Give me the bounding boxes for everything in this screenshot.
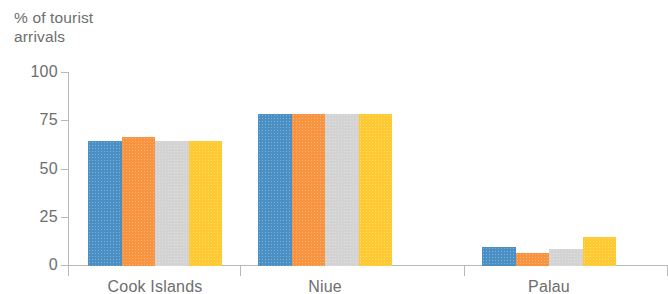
bar-4 bbox=[583, 237, 617, 266]
bar-group-niue bbox=[258, 61, 392, 266]
bar-chart: % of tourist arrivals 0255075100 Cook Is… bbox=[0, 0, 668, 294]
bar-group-palau bbox=[482, 61, 616, 266]
bar-3 bbox=[549, 249, 583, 266]
y-tick-label-50: 50 bbox=[0, 161, 58, 177]
bar-4 bbox=[189, 141, 223, 266]
bar-group-cook-islands bbox=[88, 61, 222, 266]
bar-1 bbox=[482, 247, 516, 266]
bar-2 bbox=[292, 114, 326, 266]
bar-2 bbox=[122, 137, 156, 266]
bar-3 bbox=[155, 141, 189, 266]
x-axis-separator-3 bbox=[464, 265, 465, 276]
y-tick-label-25: 25 bbox=[0, 209, 58, 225]
y-tick-label-0: 0 bbox=[0, 257, 58, 273]
bar-1 bbox=[88, 141, 122, 266]
x-label-palau: Palau bbox=[528, 278, 570, 294]
y-axis-title: % of tourist arrivals bbox=[14, 8, 93, 46]
y-tick-text: 0 bbox=[49, 257, 58, 273]
x-axis-separator-2 bbox=[240, 265, 241, 276]
x-axis-separator-1 bbox=[68, 265, 69, 276]
y-tick-label-100: 100 bbox=[0, 64, 58, 80]
y-tick-text: 25 bbox=[40, 209, 58, 225]
bar-1 bbox=[258, 114, 292, 266]
plot-area bbox=[68, 60, 668, 266]
y-tick-label-75: 75 bbox=[0, 112, 58, 128]
y-tick-text: 50 bbox=[40, 161, 58, 177]
bar-2 bbox=[516, 253, 550, 267]
y-tick-text: 75 bbox=[40, 112, 58, 128]
y-tick-text: 100 bbox=[30, 64, 58, 80]
bar-3 bbox=[325, 114, 359, 266]
x-label-cook-islands: Cook Islands bbox=[108, 278, 203, 294]
bar-4 bbox=[359, 114, 393, 266]
x-label-niue: Niue bbox=[308, 278, 342, 294]
